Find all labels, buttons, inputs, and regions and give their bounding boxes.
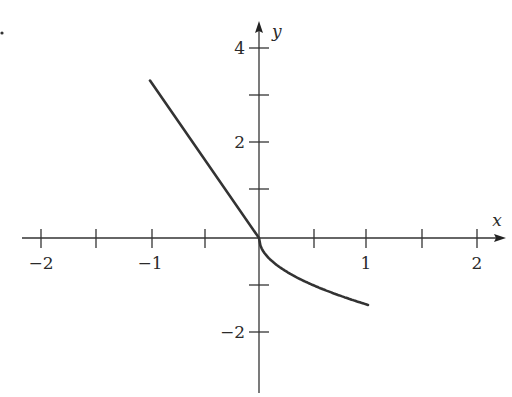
y-tick-label-4: 4 (234, 38, 245, 58)
y-tick-label-2: 2 (234, 132, 245, 152)
x-tick-label-2: 2 (472, 253, 483, 273)
x-axis-label: x (492, 210, 502, 230)
function-graph: −2 −1 1 2 x 4 2 −2 y (0, 0, 512, 397)
x-tick-label-neg2: −2 (28, 253, 53, 273)
y-axis-label: y (271, 21, 282, 41)
y-axis: 4 2 −2 y (220, 21, 282, 393)
corner-dot (0, 31, 3, 34)
y-tick-label-neg2: −2 (220, 322, 245, 342)
x-tick-label-1: 1 (361, 253, 372, 273)
x-tick-label-neg1: −1 (137, 253, 162, 273)
x-axis: −2 −1 1 2 x (22, 210, 506, 273)
